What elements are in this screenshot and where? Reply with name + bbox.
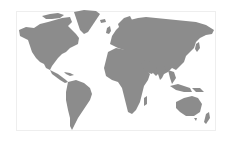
southeast-asia <box>168 70 176 84</box>
japan <box>195 42 200 52</box>
central-america <box>50 70 68 83</box>
new-zealand <box>204 112 210 124</box>
south-america <box>66 80 92 130</box>
uk <box>106 26 111 34</box>
tasmania <box>194 118 197 121</box>
australia <box>176 96 202 116</box>
arctic-islands <box>42 13 64 19</box>
caribbean <box>64 72 74 76</box>
new-guinea <box>192 88 204 92</box>
world-map <box>0 0 232 142</box>
north-america <box>19 17 79 70</box>
iceland <box>100 19 106 23</box>
madagascar <box>144 96 147 106</box>
greenland <box>74 10 100 34</box>
indonesia <box>170 84 192 92</box>
